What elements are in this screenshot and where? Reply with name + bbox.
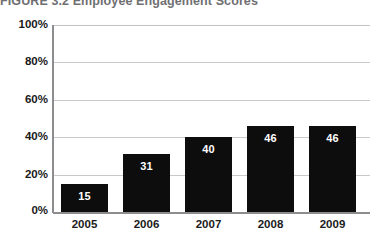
y-tick-label-40: 40%	[2, 130, 48, 142]
bar-2007[interactable]: 40	[185, 137, 232, 212]
x-tick-label-2009: 2009	[301, 216, 364, 232]
bar-2006[interactable]: 31	[123, 154, 170, 212]
bar-value-label: 46	[309, 132, 356, 144]
y-axis-labels: 100% 80% 60% 40% 20% 0%	[0, 0, 48, 246]
chart-figure: FIGURE 3.2 Employee Engagement Scores 10…	[0, 0, 378, 246]
x-tick-label-2007: 2007	[177, 216, 240, 232]
bar-2009[interactable]: 46	[309, 126, 356, 212]
bar-value-label: 15	[61, 190, 108, 202]
bars-layer: 15 31 40 46 46	[53, 25, 370, 212]
x-axis-labels: 2005 2006 2007 2008 2009	[53, 216, 370, 236]
bar-value-label: 40	[185, 143, 232, 155]
bar-value-label: 31	[123, 160, 170, 172]
bar-2008[interactable]: 46	[247, 126, 294, 212]
bar-value-label: 46	[247, 132, 294, 144]
y-tick-label-100: 100%	[2, 18, 48, 30]
y-tick-label-20: 20%	[2, 168, 48, 180]
y-tick-label-60: 60%	[2, 93, 48, 105]
y-tick-label-0: 0%	[2, 204, 48, 216]
x-axis-line	[53, 212, 370, 214]
page-title: FIGURE 3.2 Employee Engagement Scores	[0, 0, 378, 9]
bar-2005[interactable]: 15	[61, 184, 108, 212]
y-tick-label-80: 80%	[2, 55, 48, 67]
x-tick-label-2005: 2005	[53, 216, 116, 232]
x-tick-label-2008: 2008	[239, 216, 302, 232]
x-tick-label-2006: 2006	[115, 216, 178, 232]
